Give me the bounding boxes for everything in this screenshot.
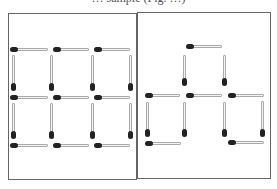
- vertical-match-icon: [91, 55, 94, 90]
- vertical-match-icon: [129, 103, 132, 138]
- vertical-match-icon: [50, 55, 53, 90]
- horizontal-match-icon: [54, 48, 89, 51]
- horizontal-match-icon: [11, 48, 48, 51]
- vertical-match-icon: [183, 55, 186, 85]
- horizontal-match-icon: [229, 141, 264, 144]
- vertical-match-icon: [261, 101, 264, 136]
- vertical-match-icon: [223, 102, 226, 136]
- vertical-match-icon: [12, 103, 15, 138]
- vertical-match-icon: [91, 103, 94, 138]
- vertical-match-icon: [183, 102, 186, 136]
- vertical-match-icon: [50, 103, 53, 138]
- horizontal-match-icon: [187, 94, 222, 97]
- vertical-match-icon: [146, 102, 149, 136]
- horizontal-match-icon: [187, 45, 222, 48]
- vertical-match-icon: [223, 55, 226, 85]
- horizontal-match-icon: [95, 96, 130, 99]
- horizontal-match-icon: [54, 144, 89, 147]
- figure-caption: … sample (Fig. …): [0, 0, 277, 6]
- vertical-match-icon: [129, 55, 132, 90]
- horizontal-match-icon: [95, 48, 130, 51]
- horizontal-match-icon: [11, 96, 48, 99]
- horizontal-match-icon: [229, 94, 264, 97]
- horizontal-match-icon: [11, 144, 48, 147]
- vertical-match-icon: [12, 55, 15, 90]
- horizontal-match-icon: [54, 96, 89, 99]
- horizontal-match-icon: [146, 142, 181, 145]
- horizontal-match-icon: [146, 94, 180, 97]
- horizontal-match-icon: [95, 144, 130, 147]
